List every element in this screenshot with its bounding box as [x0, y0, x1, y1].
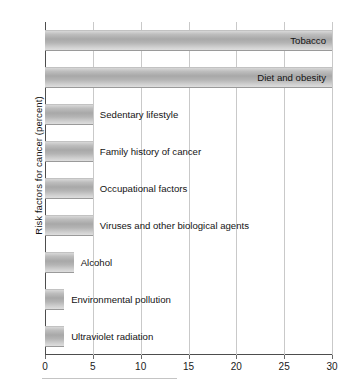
bar-family-history-of-cancer — [45, 141, 93, 162]
bar-row: Family history of cancer — [45, 141, 332, 162]
bar-ultraviolet-radiation — [45, 326, 64, 347]
footer-divider — [42, 378, 177, 379]
bar-environmental-pollution — [45, 289, 64, 310]
x-tick-mark-20 — [236, 355, 237, 359]
bar-label: Environmental pollution — [71, 295, 171, 305]
x-tick-mark-30 — [332, 355, 333, 359]
bar-viruses-and-other-biological-agents — [45, 215, 93, 236]
x-tick-label-25: 25 — [264, 361, 304, 372]
bar-row: Diet and obesity — [45, 67, 332, 88]
bar-label: Ultraviolet radiation — [71, 332, 153, 342]
bar-label: Sedentary lifestyle — [100, 110, 178, 120]
x-tick-label-15: 15 — [169, 361, 209, 372]
x-tick-label-5: 5 — [73, 361, 113, 372]
bar-occupational-factors — [45, 178, 93, 199]
x-tick-label-10: 10 — [121, 361, 161, 372]
x-tick-label-0: 0 — [25, 361, 65, 372]
x-tick-mark-25 — [284, 355, 285, 359]
bar-row: Viruses and other biological agents — [45, 215, 332, 236]
bar-label: Alcohol — [81, 258, 112, 268]
bar-label: Occupational factors — [100, 184, 187, 194]
bar-row: Occupational factors — [45, 178, 332, 199]
x-tick-mark-10 — [141, 355, 142, 359]
plot-area: 051015202530 TobaccoDiet and obesitySede… — [45, 22, 332, 355]
bar-label: Viruses and other biological agents — [100, 221, 249, 231]
bar-row: Environmental pollution — [45, 289, 332, 310]
bar-label: Tobacco — [290, 36, 326, 46]
bar-row: Alcohol — [45, 252, 332, 273]
bar-alcohol — [45, 252, 74, 273]
y-axis-title: Risk factors for cancer (percent) — [33, 66, 44, 266]
x-tick-label-30: 30 — [312, 361, 347, 372]
bar-tobacco — [45, 30, 332, 51]
bar-row: Ultraviolet radiation — [45, 326, 332, 347]
bar-row: Sedentary lifestyle — [45, 104, 332, 125]
x-tick-label-20: 20 — [216, 361, 256, 372]
x-tick-mark-15 — [189, 355, 190, 359]
x-tick-mark-0 — [45, 355, 46, 359]
x-tick-mark-5 — [93, 355, 94, 359]
bar-chart-figure: Risk factors for cancer (percent) 051015… — [0, 0, 347, 387]
bar-label: Diet and obesity — [257, 73, 326, 83]
bar-sedentary-lifestyle — [45, 104, 93, 125]
bar-row: Tobacco — [45, 30, 332, 51]
bar-label: Family history of cancer — [100, 147, 201, 157]
gridline-30 — [332, 22, 333, 355]
